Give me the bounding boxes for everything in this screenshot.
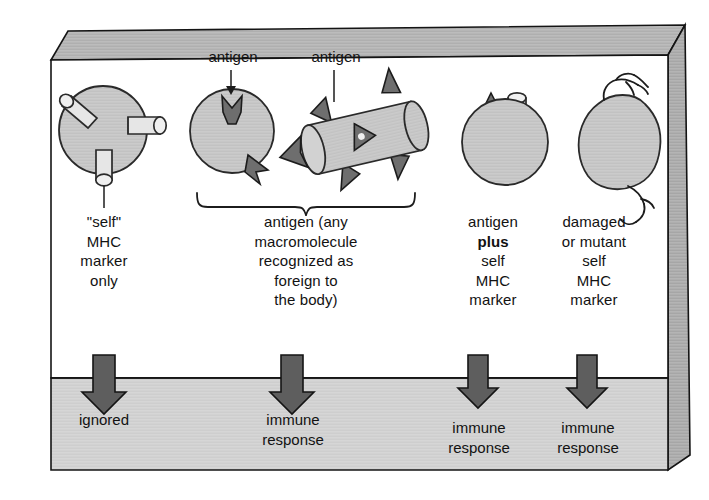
outcome-col2: immune response — [238, 410, 348, 449]
caption-col1: "self" MHC marker only — [52, 212, 156, 290]
box-right-face — [668, 25, 690, 470]
top-label-antigen-2: antigen — [291, 48, 381, 65]
top-label-antigen-1: antigen — [188, 48, 278, 65]
brace-line-2: recognized as — [211, 251, 401, 271]
caption-col5: damaged or mutant self MHC marker — [541, 212, 647, 310]
brace-line-0: antigen (any — [211, 212, 401, 232]
outcome-col4: immune response — [424, 418, 534, 457]
outcome-col5: immune response — [533, 418, 643, 457]
caption-col4-line-1: plus — [444, 232, 542, 252]
caption-col4: antigen plus self MHC marker — [444, 212, 542, 310]
caption-col4-line-3: MHC — [444, 271, 542, 291]
outcome-col1: ignored — [52, 410, 156, 430]
caption-col4-line-4: marker — [444, 290, 542, 310]
brace-line-4: the body) — [211, 290, 401, 310]
brace-line-1: macromolecule — [211, 232, 401, 252]
brace-line-3: foreign to — [211, 271, 401, 291]
mhc-marker-bottom — [96, 150, 112, 186]
caption-col4-line-0: antigen — [444, 212, 542, 232]
figure-canvas: antigen antigen "self" MHC marker only a… — [0, 0, 709, 500]
caption-col4-line-2: self — [444, 251, 542, 271]
mhc-marker-right — [128, 117, 166, 134]
caption-antigen-group: antigen (any macromolecule recognized as… — [211, 212, 401, 310]
